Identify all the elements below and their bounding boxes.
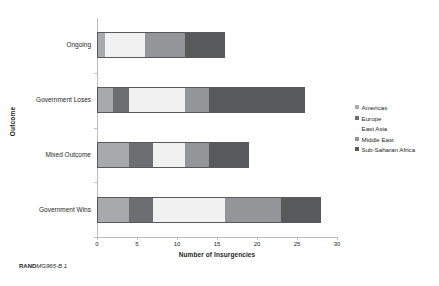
y-axis-category-label: Government Wins <box>1 206 91 213</box>
x-axis-title: Number of Insurgencies <box>97 251 337 258</box>
legend-label: Europe <box>362 114 382 123</box>
bar-segment <box>185 142 209 168</box>
legend-label: Sub-Saharan Africa <box>362 145 416 154</box>
x-axis-tick <box>137 237 138 240</box>
legend-item[interactable]: Sub-Saharan Africa <box>355 145 439 154</box>
x-axis-tick <box>217 237 218 240</box>
x-axis-tick-label: 30 <box>325 241 349 247</box>
bar-segment <box>129 197 153 223</box>
legend-item[interactable]: East Asia <box>355 124 439 133</box>
x-axis-tick-label: 20 <box>245 241 269 247</box>
y-axis-tick <box>94 182 97 183</box>
bar-segment <box>185 32 225 58</box>
bar-segment <box>185 87 209 113</box>
y-axis-tick <box>94 73 97 74</box>
legend-item[interactable]: Middle East <box>355 135 439 144</box>
y-axis-category-label: Ongoing <box>1 41 91 48</box>
legend-swatch-icon <box>355 116 359 120</box>
bar-segment <box>97 87 113 113</box>
legend-label: East Asia <box>362 124 388 133</box>
legend-swatch-icon <box>355 137 359 141</box>
legend-swatch-icon <box>355 126 359 130</box>
legend-label: Middle East <box>362 135 394 144</box>
x-axis-tick <box>337 237 338 240</box>
bar-segment <box>281 197 321 223</box>
x-axis-tick-label: 25 <box>285 241 309 247</box>
y-axis-tick <box>94 237 97 238</box>
bar-segment <box>113 87 129 113</box>
legend-swatch-icon <box>355 105 359 109</box>
legend-label: Americas <box>362 103 388 112</box>
y-axis-category-label: Government Loses <box>1 96 91 103</box>
x-axis-tick-label: 15 <box>205 241 229 247</box>
bar-segment <box>145 32 185 58</box>
footer-figure-id: MG965-B.1 <box>36 263 67 269</box>
x-axis-tick-label: 0 <box>85 241 109 247</box>
bar-segment <box>209 87 305 113</box>
bar-segment <box>97 142 129 168</box>
y-axis-tick <box>94 128 97 129</box>
x-axis-tick <box>257 237 258 240</box>
chart-figure: Outcome 051015202530OngoingGovernment Lo… <box>0 0 439 286</box>
y-axis-category-label: Mixed Outcome <box>1 151 91 158</box>
bar-segment <box>209 142 249 168</box>
bar-segment <box>129 87 185 113</box>
x-axis-tick-label: 10 <box>165 241 189 247</box>
footer-brand: RAND <box>19 263 36 269</box>
bar-segment <box>129 142 153 168</box>
legend-item[interactable]: Europe <box>355 114 439 123</box>
figure-footer: RANDMG965-B.1 <box>19 263 67 269</box>
chart-legend: AmericasEuropeEast AsiaMiddle EastSub-Sa… <box>355 103 439 156</box>
bar-segment <box>153 142 185 168</box>
x-axis-tick <box>97 237 98 240</box>
legend-item[interactable]: Americas <box>355 103 439 112</box>
x-axis-tick <box>177 237 178 240</box>
bar-segment <box>225 197 281 223</box>
legend-swatch-icon <box>355 147 359 151</box>
bar-segment <box>97 32 105 58</box>
x-axis-tick-label: 5 <box>125 241 149 247</box>
x-axis-tick <box>297 237 298 240</box>
bar-segment <box>105 32 145 58</box>
bar-segment <box>97 197 129 223</box>
bar-segment <box>153 197 225 223</box>
